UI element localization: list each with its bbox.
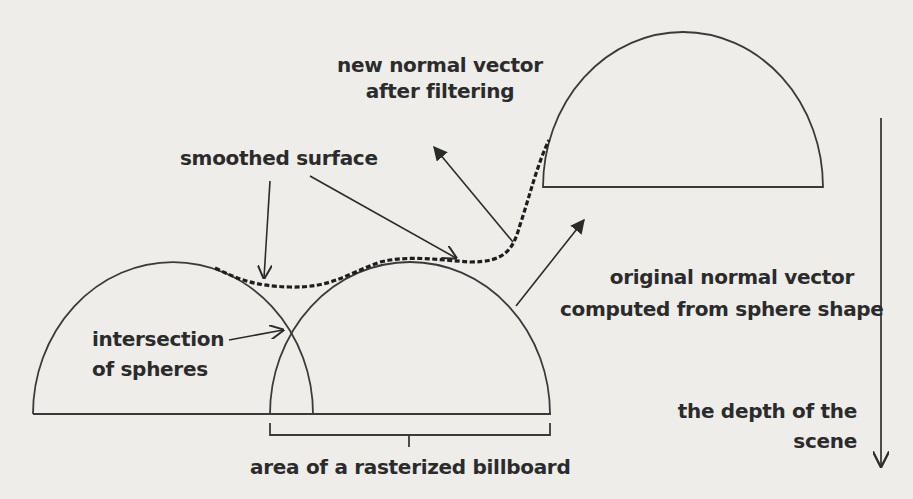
new-normal-label: new normal vector after filtering	[320, 52, 560, 104]
smoothed-surface-label: smoothed surface	[180, 145, 378, 171]
depth-label-line1: the depth of the	[650, 398, 857, 424]
upper-sphere-outline	[543, 32, 823, 187]
smoothed-surface-arrow-left	[264, 181, 270, 278]
new-normal-label-line1: new normal vector	[320, 52, 560, 78]
intersection-arrow	[229, 330, 283, 340]
new-normal-label-line2: after filtering	[320, 78, 560, 104]
new-normal-vector-arrow	[434, 147, 513, 242]
original-normal-label-line1: original normal vector	[560, 264, 854, 290]
depth-label: the depth of the scene	[650, 398, 857, 454]
intersection-label: intersection of spheres	[92, 326, 224, 382]
depth-label-line2: scene	[650, 428, 857, 454]
smoothed-surface-arrow-right	[310, 176, 456, 258]
intersection-label-line2: of spheres	[92, 356, 224, 382]
intersection-label-line1: intersection	[92, 326, 224, 352]
original-normal-label: original normal vector computed from sph…	[560, 264, 854, 322]
billboard-bracket	[270, 423, 550, 447]
diagram-canvas: new normal vector after filtering smooth…	[0, 0, 913, 499]
original-normal-label-line2: computed from sphere shape	[560, 296, 854, 322]
billboard-area-label: area of a rasterized billboard	[250, 454, 570, 480]
